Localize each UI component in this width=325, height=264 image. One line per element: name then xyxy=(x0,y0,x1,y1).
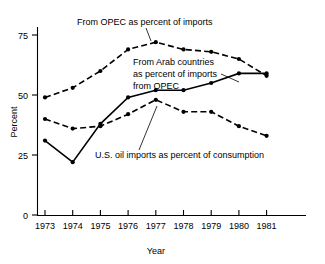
y-axis-title: Percent xyxy=(9,106,19,138)
data-point xyxy=(181,110,185,114)
x-axis-ticks xyxy=(45,210,267,216)
y-tick-label-0: 0 xyxy=(23,211,28,221)
x-tick-label-1977: 1977 xyxy=(146,221,166,231)
data-point xyxy=(181,88,185,92)
data-point xyxy=(265,134,269,138)
data-point xyxy=(237,124,241,128)
data-point xyxy=(237,71,241,75)
annotation-us-imports: U.S. oil imports as percent of consumpti… xyxy=(95,150,264,160)
x-axis-title: Year xyxy=(147,246,165,256)
x-axis-tick-labels: 1973 1974 1975 1976 1977 1978 1979 1980 … xyxy=(35,221,277,231)
x-tick-label-1978: 1978 xyxy=(173,221,193,231)
annotation-arab-countries-line2: as percent of imports xyxy=(133,69,218,79)
annotation-arab-countries-line3: from OPEC xyxy=(133,81,180,91)
data-point xyxy=(126,112,130,116)
data-point xyxy=(126,47,130,51)
annotation-arab-countries-line1: From Arab countries xyxy=(133,57,215,67)
y-axis-tick-labels: 75 50 25 0 xyxy=(18,31,28,221)
y-tick-label-75: 75 xyxy=(18,31,28,41)
y-axis-ticks xyxy=(32,35,38,215)
data-point xyxy=(43,95,47,99)
data-point xyxy=(237,57,241,61)
x-tick-label-1976: 1976 xyxy=(118,221,138,231)
data-point xyxy=(43,139,47,143)
data-point xyxy=(209,50,213,54)
data-point xyxy=(154,98,158,102)
y-tick-label-25: 25 xyxy=(18,151,28,161)
chart-container: 75 50 25 0 1973 1974 1975 1976 1977 1978… xyxy=(0,0,325,264)
x-tick-label-1975: 1975 xyxy=(90,221,110,231)
axis-lines xyxy=(38,27,307,216)
x-tick-label-1981: 1981 xyxy=(257,221,277,231)
x-tick-label-1979: 1979 xyxy=(201,221,221,231)
y-tick-label-50: 50 xyxy=(18,91,28,101)
data-point xyxy=(43,117,47,121)
data-point xyxy=(71,127,75,131)
data-point xyxy=(154,40,158,44)
data-point xyxy=(71,160,75,164)
data-point xyxy=(71,86,75,90)
data-point xyxy=(181,47,185,51)
leader-line-opec-imports xyxy=(146,28,151,41)
data-point xyxy=(126,95,130,99)
line-chart: 75 50 25 0 1973 1974 1975 1976 1977 1978… xyxy=(0,0,325,264)
data-point xyxy=(98,69,102,73)
data-point xyxy=(98,124,102,128)
leader-line-us-imports xyxy=(139,106,157,150)
data-point xyxy=(209,110,213,114)
x-tick-label-1973: 1973 xyxy=(35,221,55,231)
x-tick-label-1974: 1974 xyxy=(63,221,83,231)
data-point xyxy=(209,81,213,85)
x-tick-label-1980: 1980 xyxy=(229,221,249,231)
series-line-us-imports xyxy=(45,100,267,136)
annotation-opec-imports: From OPEC as percent of imports xyxy=(77,17,213,27)
data-point xyxy=(265,71,269,75)
